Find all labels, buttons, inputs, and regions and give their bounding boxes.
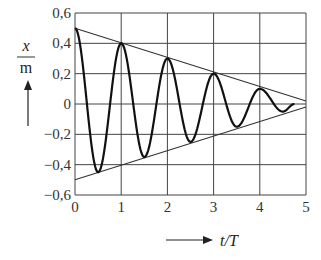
y-tick-label: −0,6 bbox=[44, 187, 72, 203]
envelope-line bbox=[75, 107, 306, 180]
y-label-quantity: x bbox=[21, 37, 29, 54]
tick-labels: 0123450,60,40,20−0,2−0,4−0,6 bbox=[44, 5, 310, 215]
x-label: t/T bbox=[220, 232, 239, 249]
y-tick-label: −0,2 bbox=[44, 126, 71, 142]
y-tick-label: −0,4 bbox=[44, 157, 72, 173]
y-label-unit: m bbox=[20, 59, 33, 76]
x-tick-label: 0 bbox=[71, 199, 79, 215]
x-axis-label: t/T bbox=[166, 232, 239, 249]
damped-oscillation-chart: 0123450,60,40,20−0,2−0,4−0,6 x m t/T bbox=[0, 0, 321, 260]
x-tick-label: 5 bbox=[302, 199, 310, 215]
envelope-line bbox=[75, 28, 306, 101]
x-arrow-icon bbox=[203, 236, 213, 244]
y-axis-label: x m bbox=[17, 37, 35, 126]
y-arrow-icon bbox=[24, 80, 32, 90]
x-tick-label: 4 bbox=[256, 199, 264, 215]
y-tick-label: 0,4 bbox=[52, 35, 71, 51]
y-tick-label: 0 bbox=[64, 96, 72, 112]
y-tick-label: 0,6 bbox=[52, 5, 71, 21]
oscillation-curve bbox=[75, 28, 294, 172]
x-tick-label: 1 bbox=[117, 199, 125, 215]
y-tick-label: 0,2 bbox=[52, 66, 71, 82]
x-tick-label: 3 bbox=[210, 199, 218, 215]
x-tick-label: 2 bbox=[164, 199, 172, 215]
